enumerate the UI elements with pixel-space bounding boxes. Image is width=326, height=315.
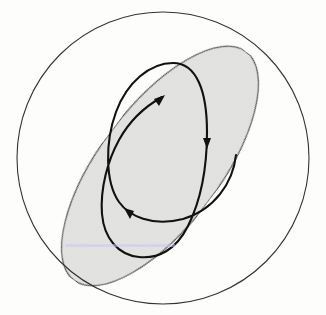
- scan-artifact: [65, 244, 175, 247]
- diagram-figure: [0, 0, 326, 315]
- shaded-ellipse: [26, 16, 294, 315]
- figure-caption: [4, 305, 324, 315]
